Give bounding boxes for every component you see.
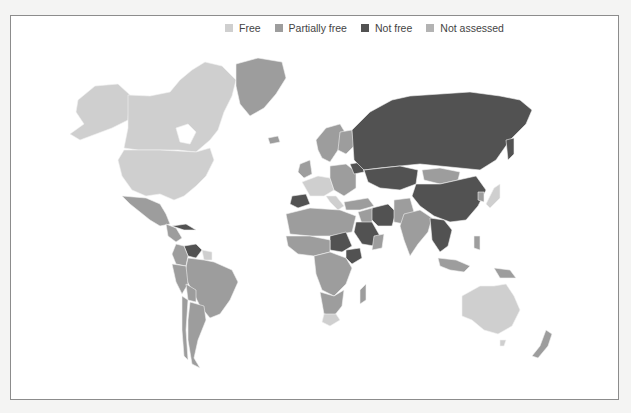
region-iraq-syria[interactable] [358,208,372,224]
region-argentina[interactable] [188,302,206,368]
region-madagascar[interactable] [360,284,366,304]
region-mexico[interactable] [122,196,170,226]
region-south-africa[interactable] [322,314,340,326]
region-philippines[interactable] [474,236,480,250]
region-kazakhstan[interactable] [364,166,418,190]
region-australia[interactable] [462,284,520,334]
region-korea[interactable] [478,192,484,202]
region-guyana[interactable] [202,250,212,260]
region-tasmania[interactable] [500,340,506,346]
region-iran[interactable] [370,204,396,226]
legend-label-not-assessed: Not assessed [440,22,504,34]
legend-label-free: Free [239,22,261,34]
region-turkey[interactable] [344,198,374,210]
region-peru[interactable] [172,264,188,294]
region-india[interactable] [400,210,432,256]
region-usa[interactable] [118,148,214,200]
legend-swatch-free-icon [225,24,233,32]
region-west-africa[interactable] [286,236,330,256]
legend-item-not-assessed: Not assessed [426,22,504,34]
region-japan[interactable] [486,184,500,208]
legend-item-partially-free: Partially free [275,22,347,34]
region-chile[interactable] [182,296,188,360]
legend-swatch-partially-free-icon [275,24,283,32]
legend-label-partially-free: Partially free [289,22,347,34]
map-legend: Free Partially free Not free Not assesse… [225,22,504,34]
region-italy-balkans[interactable] [326,196,344,210]
region-southeast-asia[interactable] [430,218,452,252]
region-iceland[interactable] [268,136,280,144]
region-papua-new-guinea[interactable] [494,268,516,278]
region-finland[interactable] [338,130,354,154]
region-russia[interactable] [352,92,532,170]
region-greenland[interactable] [236,58,286,116]
legend-label-not-free: Not free [375,22,412,34]
region-yemen-oman[interactable] [372,234,384,250]
region-sudan[interactable] [330,232,352,252]
region-uk-ireland[interactable] [298,160,312,178]
region-alaska[interactable] [70,84,130,140]
legend-swatch-not-assessed-icon [426,24,434,32]
legend-swatch-not-free-icon [361,24,369,32]
legend-item-free: Free [225,22,261,34]
world-map [0,0,631,413]
region-spain[interactable] [290,194,310,208]
region-central-africa[interactable] [314,252,352,296]
region-north-africa[interactable] [286,208,356,236]
region-new-zealand[interactable] [532,330,552,358]
region-kamchatka[interactable] [506,138,514,160]
region-indonesia[interactable] [438,258,470,272]
region-western-europe[interactable] [302,176,334,196]
legend-item-not-free: Not free [361,22,412,34]
